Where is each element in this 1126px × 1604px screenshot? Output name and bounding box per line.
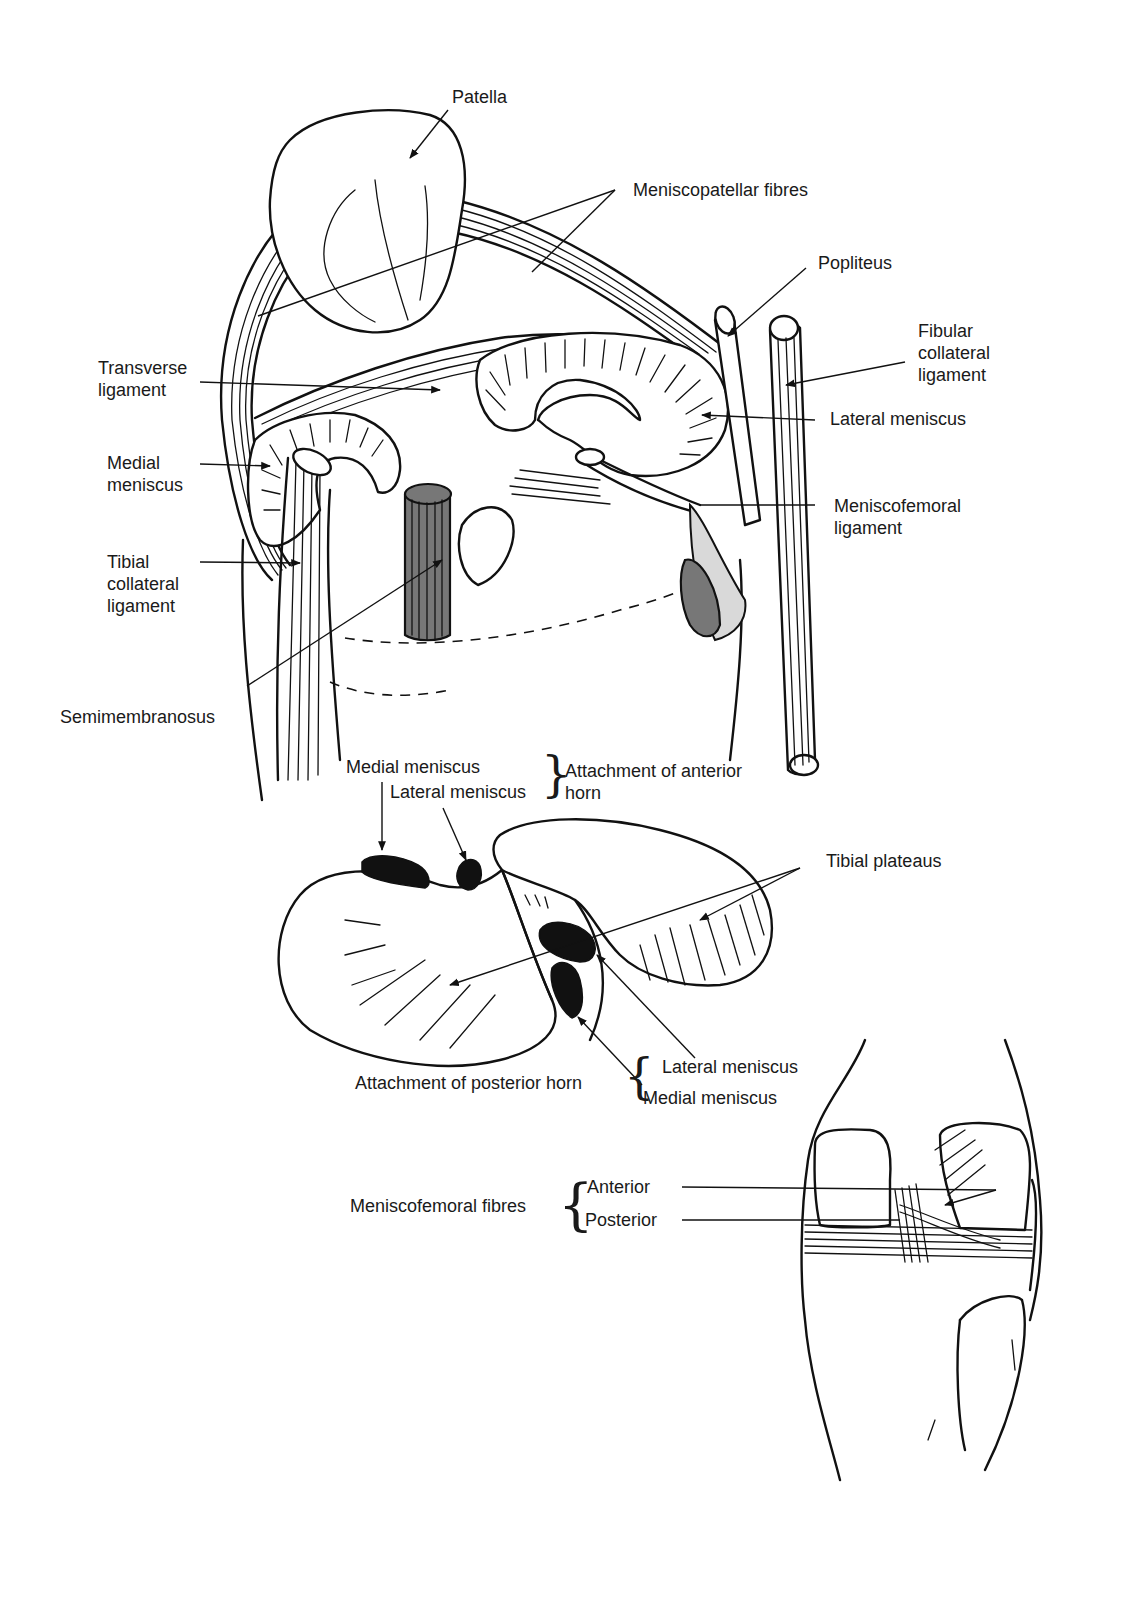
label-fibular-collateral-ligament: Fibular collateral ligament xyxy=(918,320,990,386)
label-lateral-meniscus-top: Lateral meniscus xyxy=(830,408,966,430)
label-transverse-ligament: Transverse ligament xyxy=(98,357,187,401)
label-popliteus: Popliteus xyxy=(818,252,892,274)
knee-anatomy-illustration xyxy=(0,0,1126,1604)
middle-panel-drawing xyxy=(279,782,800,1085)
label-line: meniscus xyxy=(107,474,183,496)
label-tibial-collateral-ligament: Tibial collateral ligament xyxy=(107,551,179,617)
label-line: Medial xyxy=(107,452,183,474)
label-line: collateral xyxy=(918,342,990,364)
label-medial-meniscus-top: Medial meniscus xyxy=(107,452,183,496)
label-line: ligament xyxy=(107,595,179,617)
label-tibial-plateaus: Tibial plateaus xyxy=(826,850,941,872)
label-line: Transverse xyxy=(98,357,187,379)
label-semimembranosus: Semimembranosus xyxy=(60,706,215,728)
label-meniscopatellar-fibres: Meniscopatellar fibres xyxy=(633,179,808,201)
label-attachment-anterior-horn: Attachment of anterior horn xyxy=(565,760,742,804)
label-line: horn xyxy=(565,782,742,804)
label-anterior: Anterior xyxy=(587,1176,650,1198)
label-line: Fibular xyxy=(918,320,990,342)
label-line: Tibial xyxy=(107,551,179,573)
label-line: Meniscofemoral xyxy=(834,495,961,517)
label-line: Attachment of anterior xyxy=(565,760,742,782)
label-posterior-lateral-meniscus: Lateral meniscus xyxy=(662,1056,798,1078)
label-line: ligament xyxy=(98,379,187,401)
label-patella: Patella xyxy=(452,86,507,108)
label-meniscofemoral-fibres: Meniscofemoral fibres xyxy=(350,1195,526,1217)
label-posterior: Posterior xyxy=(585,1209,657,1231)
label-anterior-medial-meniscus: Medial meniscus xyxy=(346,756,480,778)
label-attachment-posterior-horn: Attachment of posterior horn xyxy=(355,1072,582,1094)
label-meniscofemoral-ligament: Meniscofemoral ligament xyxy=(834,495,961,539)
label-line: ligament xyxy=(918,364,990,386)
label-line: ligament xyxy=(834,517,961,539)
label-anterior-lateral-meniscus: Lateral meniscus xyxy=(390,781,526,803)
label-posterior-medial-meniscus: Medial meniscus xyxy=(643,1087,777,1109)
top-panel-drawing xyxy=(200,110,905,800)
label-line: collateral xyxy=(107,573,179,595)
